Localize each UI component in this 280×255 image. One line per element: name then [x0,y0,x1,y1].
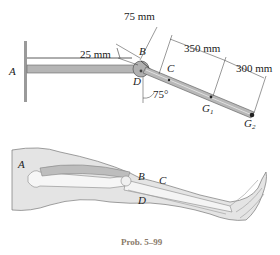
anatomical-leg: A B C D [12,148,267,220]
pin-icon [140,70,143,73]
c-point-icon [168,79,170,81]
fixed-wall [24,41,27,102]
dim-75mm: 75 mm [124,10,155,22]
femur-bar [27,65,140,73]
dim-350mm: 350 mm [184,42,221,54]
label-c-bottom: C [159,174,167,186]
g1-point-icon [210,96,213,99]
patella [121,176,131,186]
label-d-bottom: D [137,194,146,206]
dim-25mm: 25 mm [80,48,111,60]
problem-figure: A B C D G1 G2 25 mm 75 mm 350 mm 300 mm … [0,0,280,255]
label-a: A [8,65,16,77]
label-g1: G1 [202,102,213,116]
label-b: B [139,45,146,57]
label-g2: G2 [244,117,256,131]
dim-angle: 75° [153,88,168,100]
label-a-bottom: A [17,158,25,170]
label-d: D [132,75,141,87]
label-c: C [167,62,175,74]
label-b-bottom: B [138,170,145,182]
mechanical-model: A B C D G1 G2 25 mm 75 mm 350 mm 300 mm … [8,10,273,131]
dim-300mm: 300 mm [236,62,273,74]
figure-caption: Prob. 5–99 [121,237,163,247]
